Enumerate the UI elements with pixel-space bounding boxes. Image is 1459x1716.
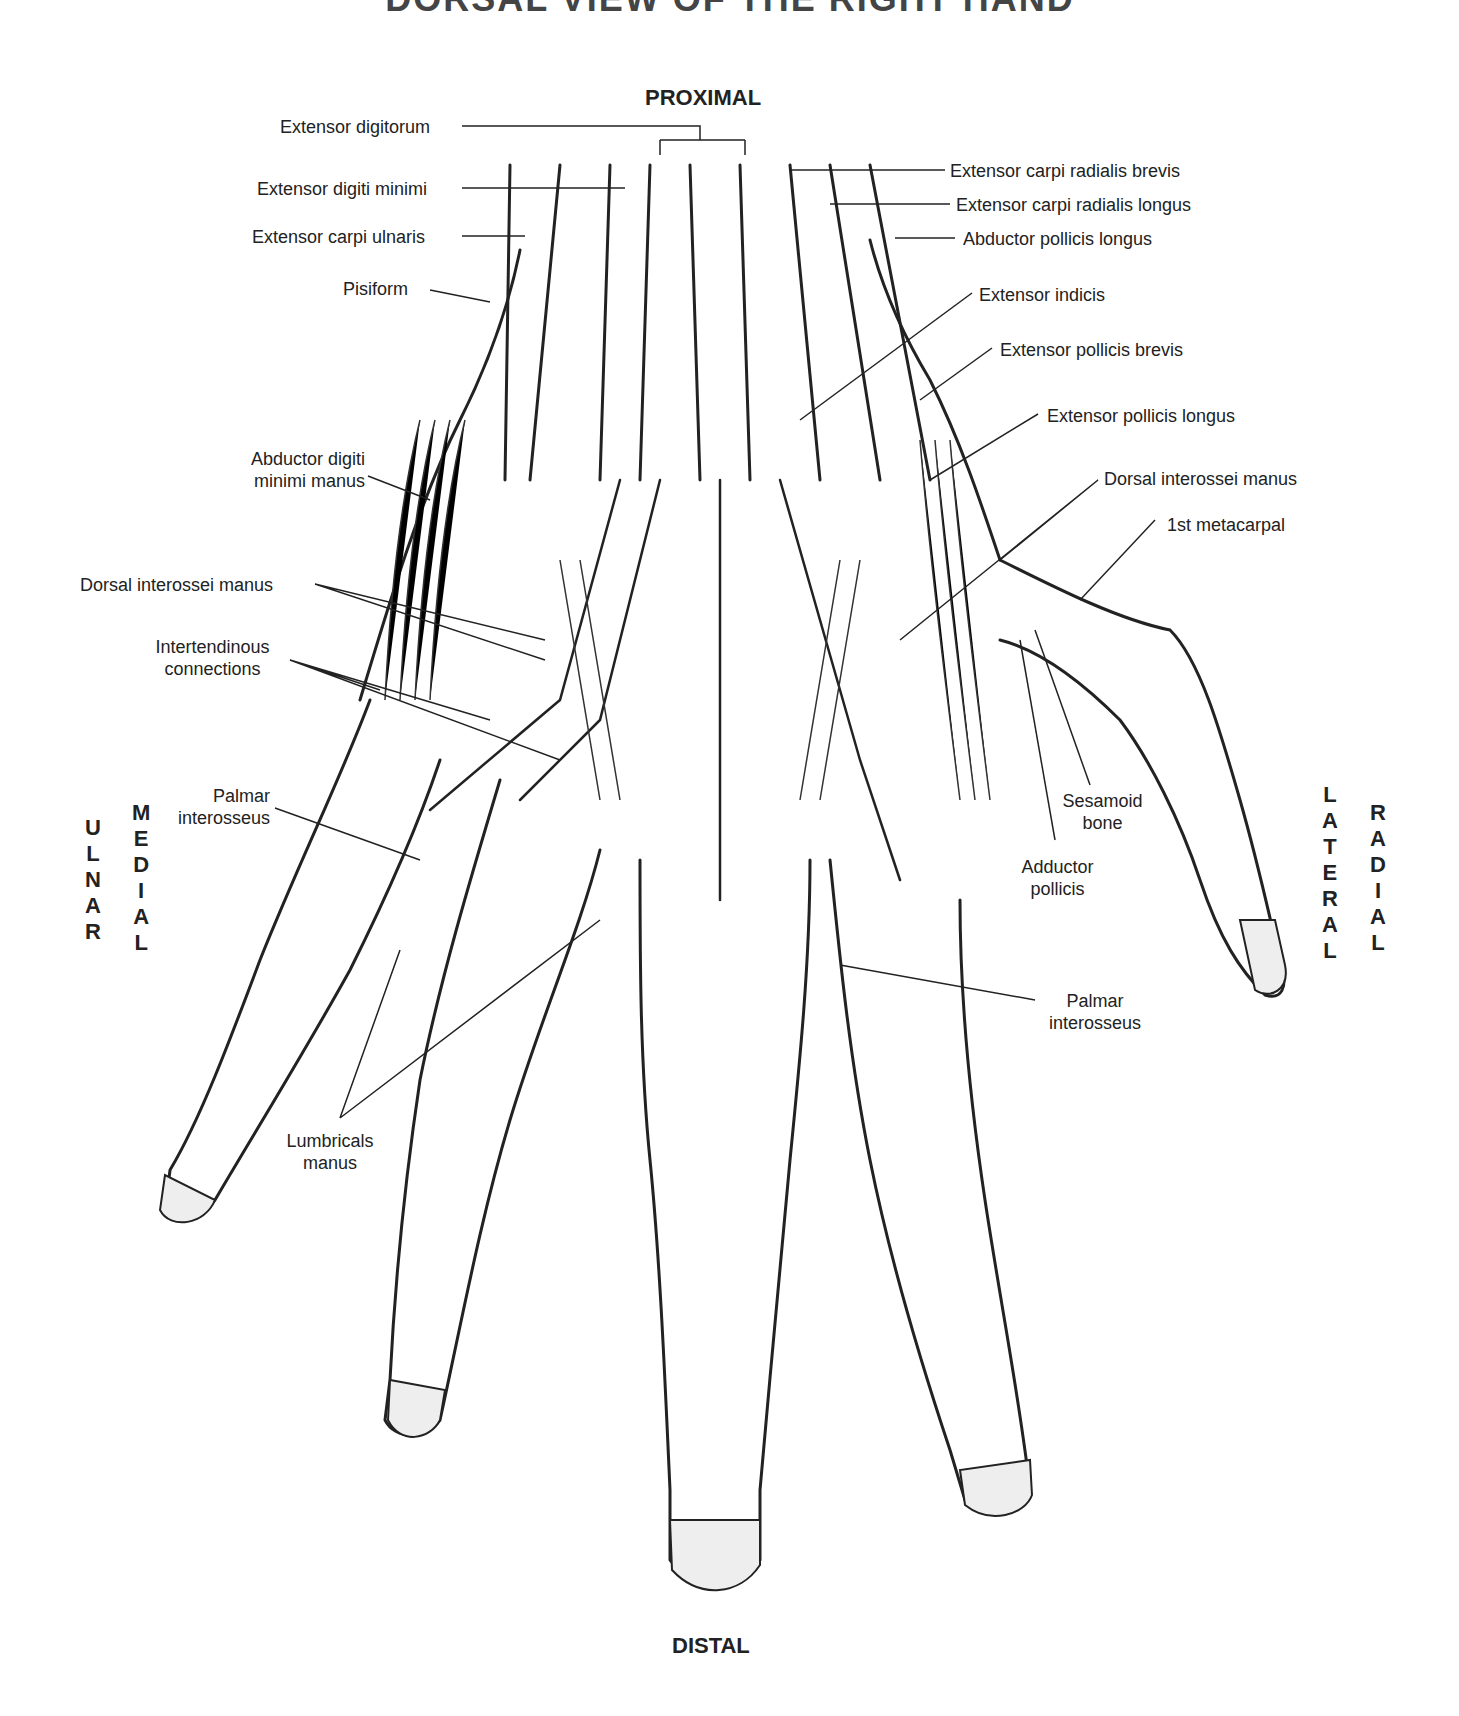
label-extensor-pollicis-brevis: Extensor pollicis brevis: [1000, 339, 1183, 361]
label-extensor-carpi-radialis-longus: Extensor carpi radialis longus: [956, 194, 1191, 216]
medial-label: MEDIAL: [132, 800, 150, 956]
label-palmar-interosseus-left: Palmar interosseus: [160, 785, 270, 829]
label-lumbricals-manus: Lumbricals manus: [275, 1130, 385, 1174]
lateral-label: LATERAL: [1322, 782, 1338, 964]
label-first-metacarpal: 1st metacarpal: [1167, 514, 1285, 536]
label-extensor-carpi-ulnaris: Extensor carpi ulnaris: [252, 226, 425, 248]
label-extensor-pollicis-longus: Extensor pollicis longus: [1047, 405, 1235, 427]
hand-outline: [160, 165, 1286, 1590]
label-abductor-pollicis-longus: Abductor pollicis longus: [963, 228, 1152, 250]
label-extensor-digitorum: Extensor digitorum: [280, 116, 430, 138]
distal-label: DISTAL: [672, 1633, 750, 1659]
label-intertendinous-connections: Intertendinous connections: [140, 636, 285, 680]
hand-illustration: [0, 0, 1459, 1716]
label-extensor-indicis: Extensor indicis: [979, 284, 1105, 306]
label-adductor-pollicis: Adductor pollicis: [1010, 856, 1105, 900]
label-dorsal-interossei-manus-left: Dorsal interossei manus: [80, 574, 273, 596]
label-pisiform: Pisiform: [343, 278, 408, 300]
label-extensor-digiti-minimi: Extensor digiti minimi: [257, 178, 427, 200]
label-dorsal-interossei-manus-right: Dorsal interossei manus: [1104, 468, 1297, 490]
label-sesamoid-bone: Sesamoid bone: [1050, 790, 1155, 834]
label-palmar-interosseus-right: Palmar interosseus: [1035, 990, 1155, 1034]
label-extensor-carpi-radialis-brevis: Extensor carpi radialis brevis: [950, 160, 1180, 182]
radial-label: RADIAL: [1370, 800, 1386, 956]
ulnar-label: ULNAR: [85, 815, 101, 945]
label-abductor-digiti-minimi-manus: Abductor digiti minimi manus: [220, 448, 365, 492]
muscle-fiber-hatching: [385, 420, 990, 800]
proximal-label: PROXIMAL: [645, 85, 761, 111]
